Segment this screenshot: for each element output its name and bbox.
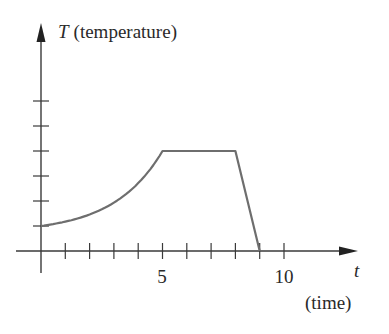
x-axis-arrowhead-icon bbox=[339, 247, 358, 256]
x-tick-label-10: 10 bbox=[275, 266, 294, 287]
x-axis-variable: t bbox=[354, 260, 360, 281]
temperature-curve bbox=[41, 151, 260, 251]
y-axis-description: (temperature) bbox=[74, 21, 177, 43]
y-axis-arrowhead-icon bbox=[37, 23, 46, 42]
temperature-time-chart: T(temperature) 5 10 t (time) bbox=[0, 0, 389, 334]
y-axis-label: T(temperature) bbox=[58, 21, 177, 43]
x-axis-description: (time) bbox=[305, 292, 351, 314]
y-axis-variable: T bbox=[58, 21, 70, 42]
x-tick-label-5: 5 bbox=[157, 266, 167, 287]
